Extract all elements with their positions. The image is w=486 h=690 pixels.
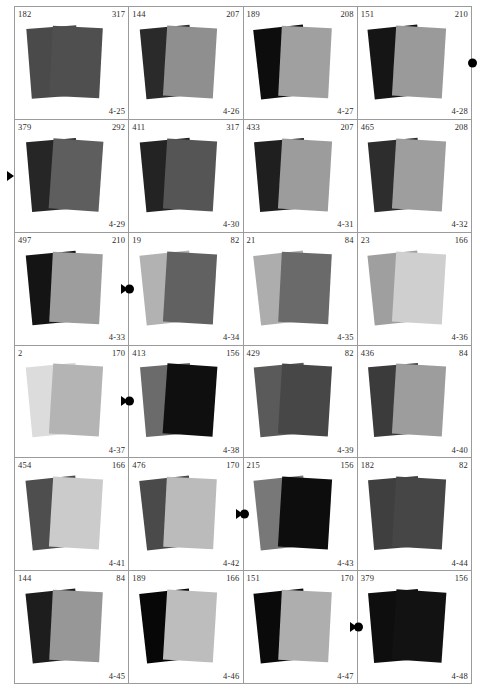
panel-id-label: 4-30 bbox=[223, 220, 239, 229]
card-pair bbox=[129, 358, 242, 446]
card-pair bbox=[129, 583, 242, 671]
front-card bbox=[163, 590, 217, 663]
stimulus-panel[interactable]: 182824-44 bbox=[358, 458, 472, 571]
panel-right-value: 210 bbox=[455, 10, 468, 19]
stimulus-panel[interactable]: 1442074-26 bbox=[129, 7, 243, 120]
stimulus-panel[interactable]: 4652084-32 bbox=[358, 120, 472, 233]
panel-right-value: 317 bbox=[226, 123, 239, 132]
card-pair bbox=[129, 470, 242, 558]
card-pair bbox=[15, 470, 128, 558]
stimulus-panel[interactable]: 231664-36 bbox=[358, 233, 472, 346]
front-card bbox=[163, 251, 217, 324]
stimulus-panel[interactable]: 3792924-29 bbox=[15, 120, 129, 233]
stimulus-panel[interactable]: 4332074-31 bbox=[244, 120, 358, 233]
front-card bbox=[163, 364, 218, 438]
panel-id-label: 4-27 bbox=[337, 107, 353, 116]
panel-right-value: 166 bbox=[226, 574, 239, 583]
front-card bbox=[163, 25, 217, 98]
panel-left-value: 23 bbox=[361, 236, 370, 245]
stimulus-panel[interactable]: 19824-34 bbox=[129, 233, 243, 346]
triangle-marker-icon bbox=[350, 622, 357, 632]
panel-right-value: 317 bbox=[112, 10, 125, 19]
stimulus-panel[interactable]: 4113174-30 bbox=[129, 120, 243, 233]
panel-right-value: 292 bbox=[112, 123, 125, 132]
panel-left-value: 2 bbox=[18, 349, 22, 358]
panel-left-value: 413 bbox=[132, 349, 145, 358]
panel-left-value: 454 bbox=[18, 461, 31, 470]
panel-right-value: 156 bbox=[455, 574, 468, 583]
card-pair bbox=[358, 583, 471, 671]
panel-right-value: 166 bbox=[112, 461, 125, 470]
stimulus-panel[interactable]: 4131564-38 bbox=[129, 346, 243, 459]
triangle-marker-icon bbox=[121, 396, 128, 406]
panel-left-value: 429 bbox=[247, 349, 260, 358]
front-card bbox=[278, 477, 332, 550]
stimulus-panel[interactable]: 1512104-28 bbox=[358, 7, 472, 120]
panel-id-label: 4-35 bbox=[337, 333, 353, 342]
panel-right-value: 207 bbox=[340, 123, 353, 132]
panel-left-value: 433 bbox=[247, 123, 260, 132]
panel-right-value: 210 bbox=[112, 236, 125, 245]
card-pair bbox=[15, 583, 128, 671]
panel-right-value: 156 bbox=[226, 349, 239, 358]
front-card bbox=[164, 477, 217, 550]
front-card bbox=[49, 590, 102, 663]
front-card bbox=[278, 138, 332, 211]
stimulus-panel[interactable]: 1511704-47 bbox=[244, 571, 358, 684]
front-card bbox=[392, 477, 446, 550]
front-card bbox=[49, 477, 103, 550]
panel-right-value: 156 bbox=[340, 461, 353, 470]
front-card bbox=[278, 251, 331, 324]
stimulus-panel[interactable]: 2151564-43 bbox=[244, 458, 358, 571]
panel-id-label: 4-40 bbox=[452, 446, 468, 455]
panel-left-value: 19 bbox=[132, 236, 141, 245]
card-pair bbox=[15, 132, 128, 220]
panel-left-value: 182 bbox=[18, 10, 31, 19]
stimulus-panel[interactable]: 1891664-46 bbox=[129, 571, 243, 684]
panel-right-value: 82 bbox=[459, 461, 468, 470]
card-pair bbox=[358, 470, 471, 558]
panel-left-value: 144 bbox=[132, 10, 145, 19]
panel-right-value: 82 bbox=[345, 349, 354, 358]
panel-id-label: 4-42 bbox=[223, 559, 239, 568]
panel-right-value: 207 bbox=[226, 10, 239, 19]
stimulus-panel[interactable]: 429824-39 bbox=[244, 346, 358, 459]
card-pair bbox=[244, 583, 357, 671]
stimulus-panel[interactable]: 4972104-33 bbox=[15, 233, 129, 346]
card-pair bbox=[244, 245, 357, 333]
panel-left-value: 436 bbox=[361, 349, 374, 358]
card-pair bbox=[358, 245, 471, 333]
card-pair bbox=[15, 19, 128, 107]
panel-left-value: 182 bbox=[361, 461, 374, 470]
panel-left-value: 215 bbox=[247, 461, 260, 470]
panel-id-label: 4-48 bbox=[452, 672, 468, 681]
stimulus-panel[interactable]: 144844-45 bbox=[15, 571, 129, 684]
stimulus-panel[interactable]: 21844-35 bbox=[244, 233, 358, 346]
front-card bbox=[392, 138, 446, 211]
stimulus-panel[interactable]: 1823174-25 bbox=[15, 7, 129, 120]
panel-right-value: 84 bbox=[116, 574, 125, 583]
panel-id-label: 4-37 bbox=[109, 446, 125, 455]
panel-left-value: 465 bbox=[361, 123, 374, 132]
panel-left-value: 189 bbox=[247, 10, 260, 19]
panel-right-value: 208 bbox=[340, 10, 353, 19]
panel-id-label: 4-29 bbox=[109, 220, 125, 229]
front-card bbox=[278, 590, 331, 663]
stimulus-panel[interactable]: 436844-40 bbox=[358, 346, 472, 459]
stimulus-panel[interactable]: 4541664-41 bbox=[15, 458, 129, 571]
stimulus-sheet: 1823174-251442074-261892084-271512104-28… bbox=[0, 0, 486, 690]
stimulus-panel[interactable]: 3791564-48 bbox=[358, 571, 472, 684]
stimulus-panel[interactable]: 21704-37 bbox=[15, 346, 129, 459]
front-card bbox=[49, 138, 104, 212]
panel-left-value: 151 bbox=[361, 10, 374, 19]
panel-left-value: 151 bbox=[247, 574, 260, 583]
front-card bbox=[49, 364, 103, 437]
panel-id-label: 4-41 bbox=[109, 559, 125, 568]
card-pair bbox=[358, 19, 471, 107]
panel-id-label: 4-46 bbox=[223, 672, 239, 681]
stimulus-panel[interactable]: 1892084-27 bbox=[244, 7, 358, 120]
front-card bbox=[49, 26, 102, 99]
panel-right-value: 170 bbox=[340, 574, 353, 583]
stimulus-panel[interactable]: 4761704-42 bbox=[129, 458, 243, 571]
panel-right-value: 166 bbox=[455, 236, 468, 245]
